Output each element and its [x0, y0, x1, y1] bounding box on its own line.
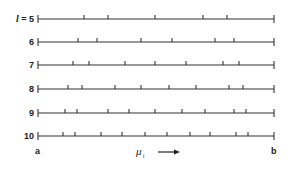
partition-row: 6 — [29, 37, 274, 47]
row-label: 9 — [29, 108, 34, 118]
row-label: l = 5 — [16, 13, 34, 24]
row-label: 8 — [29, 84, 34, 94]
axis-variable-label: μ i — [135, 145, 144, 159]
partition-row: 10 — [24, 131, 274, 141]
partition-row: 8 — [29, 84, 274, 94]
row-label: 10 — [24, 131, 34, 141]
partition-diagram: l = 5678910 a b μ i — [0, 0, 293, 173]
partition-row: 9 — [29, 108, 274, 118]
row-label: 7 — [29, 60, 34, 70]
endpoint-a-label: a — [35, 146, 41, 156]
right-arrow-icon — [158, 150, 180, 155]
mu-subscript: i — [143, 153, 144, 159]
partition-row: l = 5 — [16, 13, 274, 24]
row-label: 6 — [29, 37, 34, 47]
partition-row: 7 — [29, 60, 274, 70]
mu-symbol: μ — [135, 145, 142, 157]
endpoint-b-label: b — [271, 146, 277, 156]
partition-rows: l = 5678910 — [16, 13, 274, 141]
